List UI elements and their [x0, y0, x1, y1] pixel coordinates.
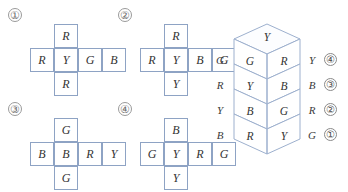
cube-1-left-letter: G — [246, 55, 255, 67]
net-2-cell-row-0: R — [140, 48, 164, 72]
net-1-cell-row-0: R — [30, 48, 54, 72]
net-1-cell-row-3: B — [102, 48, 126, 72]
net-2-cell-row-1: Y — [164, 48, 188, 72]
net-3-number: ③ — [8, 102, 22, 116]
net-3-cell-top: G — [54, 118, 78, 142]
net-1-cell-bottom: R — [54, 72, 78, 96]
isometric-cube-stack-svg: Y G R Y B B G R Y — [214, 22, 348, 182]
net-1-cell-top: R — [54, 24, 78, 48]
net-4-cell-top: B — [164, 118, 188, 142]
cube-4-left-letter: R — [245, 130, 253, 142]
net-4-cell-row-2: R — [188, 142, 212, 166]
net-4-number: ④ — [118, 102, 132, 116]
cube-2-right-letter: B — [280, 80, 287, 92]
net-2-cell-row-2: B — [188, 48, 212, 72]
net-3-cell-row-0: B — [30, 142, 54, 166]
cube-stack-diagram: G R Y B Y B R G ④ ③ ② ① Y G R Y B B G — [214, 22, 348, 182]
cube-3-right-letter: G — [280, 105, 289, 117]
net-3-cell-row-3: Y — [102, 142, 126, 166]
net-3-cell-row-2: R — [78, 142, 102, 166]
net-3-cell-row-1: B — [54, 142, 78, 166]
net-1-cell-row-2: G — [78, 48, 102, 72]
net-2-cell-top: R — [164, 24, 188, 48]
cube-3-left-letter: B — [246, 105, 253, 117]
net-2-number: ② — [118, 8, 132, 22]
net-4-cell-row-0: G — [140, 142, 164, 166]
net-2-cell-bottom: Y — [164, 72, 188, 96]
net-4-cell-row-1: Y — [164, 142, 188, 166]
cube-1-right-letter: R — [279, 55, 287, 67]
net-3-cell-bottom: G — [54, 166, 78, 190]
net-4-cell-bottom: Y — [164, 166, 188, 190]
net-1-number: ① — [8, 8, 22, 22]
net-1-cell-row-1: Y — [54, 48, 78, 72]
